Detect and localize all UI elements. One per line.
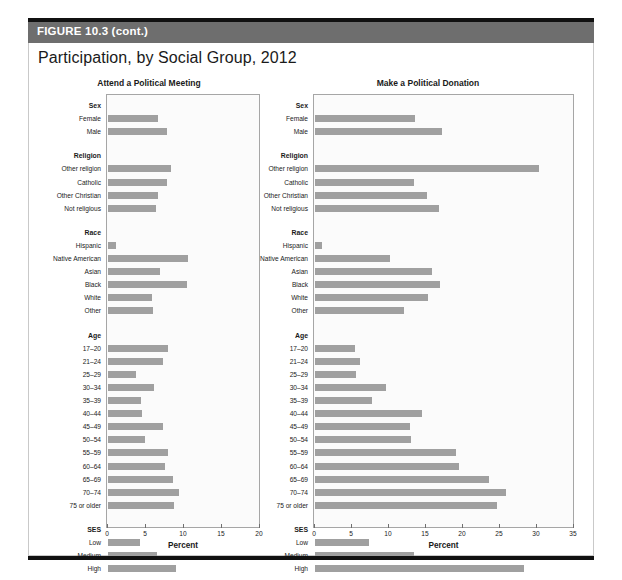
category-label: Asian bbox=[292, 268, 309, 276]
bar bbox=[108, 205, 156, 212]
category-label: 25–29 bbox=[83, 371, 101, 379]
bar bbox=[108, 476, 173, 483]
category-label: 40–44 bbox=[83, 410, 101, 418]
category-label: 70–74 bbox=[290, 489, 308, 497]
axis-tick bbox=[425, 524, 426, 528]
category-label: Low bbox=[89, 539, 101, 547]
category-label: Other religion bbox=[268, 165, 308, 173]
bar bbox=[315, 179, 414, 186]
category-label: 55–59 bbox=[83, 449, 101, 457]
group-heading: Sex bbox=[89, 102, 101, 110]
group-heading: Religion bbox=[281, 152, 308, 160]
category-label: Catholic bbox=[77, 179, 101, 187]
category-labels: SexFemaleMaleReligionOther religionCatho… bbox=[38, 94, 104, 528]
panel-title: Make a Political Donation bbox=[278, 78, 578, 88]
bar bbox=[315, 268, 432, 275]
bar bbox=[108, 449, 168, 456]
category-label: Asian bbox=[85, 268, 102, 276]
bar bbox=[108, 384, 154, 391]
axis-tick-label: 25 bbox=[487, 530, 511, 537]
category-label: 21–24 bbox=[290, 358, 308, 366]
group-heading: Religion bbox=[74, 152, 101, 160]
axis-tick-label: 15 bbox=[209, 530, 233, 537]
bar bbox=[108, 294, 152, 301]
axis-tick bbox=[107, 524, 108, 528]
category-label: 75 or older bbox=[276, 502, 308, 510]
bar bbox=[108, 165, 171, 172]
category-label: 40–44 bbox=[290, 410, 308, 418]
bar bbox=[108, 565, 176, 572]
category-label: 17–20 bbox=[83, 345, 101, 353]
category-label: Male bbox=[294, 128, 308, 136]
category-label: Other bbox=[292, 307, 309, 315]
axis-tick bbox=[573, 524, 574, 528]
bar bbox=[108, 345, 168, 352]
x-axis-title: Percent bbox=[106, 541, 260, 550]
bar bbox=[315, 192, 427, 199]
category-label: Hispanic bbox=[76, 242, 101, 250]
bar bbox=[315, 205, 439, 212]
category-label: Native American bbox=[260, 255, 308, 263]
category-label: 75 or older bbox=[69, 502, 101, 510]
category-label: 35–39 bbox=[83, 397, 101, 405]
bar bbox=[108, 128, 167, 135]
axis-tick-label: 10 bbox=[376, 530, 400, 537]
bar bbox=[315, 128, 442, 135]
axis-tick bbox=[351, 524, 352, 528]
category-label: 50–54 bbox=[83, 436, 101, 444]
group-heading: Sex bbox=[296, 102, 308, 110]
bar bbox=[315, 489, 506, 496]
category-label: 60–64 bbox=[83, 463, 101, 471]
axis-tick-label: 0 bbox=[95, 530, 119, 537]
axis-tick bbox=[462, 524, 463, 528]
bar bbox=[108, 502, 174, 509]
bar bbox=[108, 463, 165, 470]
plot-area bbox=[313, 94, 574, 528]
category-label: 70–74 bbox=[83, 489, 101, 497]
category-label: Native American bbox=[53, 255, 101, 263]
category-label: 25–29 bbox=[290, 371, 308, 379]
category-label: Not religious bbox=[64, 205, 101, 213]
bar bbox=[315, 281, 440, 288]
category-label: 45–49 bbox=[290, 423, 308, 431]
chart-panel-political-donation: Make a Political DonationSexFemaleMaleRe… bbox=[278, 78, 578, 548]
axis-tick bbox=[145, 524, 146, 528]
bar bbox=[315, 242, 322, 249]
figure-band: FIGURE 10.3 (cont.) bbox=[28, 22, 594, 43]
figure-number-label: FIGURE 10.3 (cont.) bbox=[37, 25, 148, 37]
bar bbox=[315, 358, 360, 365]
plot-area bbox=[106, 94, 260, 528]
group-heading: Race bbox=[85, 229, 101, 237]
category-label: Catholic bbox=[284, 179, 308, 187]
group-heading: Age bbox=[88, 332, 101, 340]
category-label: White bbox=[84, 294, 101, 302]
axis-tick-label: 0 bbox=[302, 530, 326, 537]
bar bbox=[315, 502, 497, 509]
bottom-rule bbox=[28, 556, 594, 560]
bar bbox=[315, 436, 411, 443]
bar bbox=[108, 307, 153, 314]
axis-tick-label: 15 bbox=[413, 530, 437, 537]
axis-tick bbox=[314, 524, 315, 528]
category-label: Other religion bbox=[61, 165, 101, 173]
x-axis-title: Percent bbox=[313, 541, 574, 550]
category-label: Female bbox=[286, 115, 308, 123]
bar bbox=[315, 384, 386, 391]
category-label: Black bbox=[85, 281, 101, 289]
bar bbox=[108, 281, 187, 288]
category-label: High bbox=[294, 565, 308, 573]
bar bbox=[108, 268, 160, 275]
category-label: Female bbox=[79, 115, 101, 123]
axis-tick bbox=[499, 524, 500, 528]
axis-tick bbox=[221, 524, 222, 528]
category-label: 50–54 bbox=[290, 436, 308, 444]
bar bbox=[315, 423, 410, 430]
bar bbox=[108, 179, 167, 186]
category-label: Other Christian bbox=[264, 192, 308, 200]
bar bbox=[108, 397, 141, 404]
axis-tick-label: 5 bbox=[133, 530, 157, 537]
bar bbox=[315, 476, 489, 483]
category-label: 65–69 bbox=[290, 476, 308, 484]
axis-tick-label: 20 bbox=[247, 530, 271, 537]
panel-title: Attend a Political Meeting bbox=[38, 78, 260, 88]
